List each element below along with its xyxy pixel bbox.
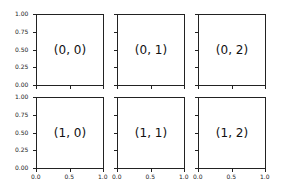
x-tick-label: 0.0 xyxy=(112,174,122,180)
y-tick-label: 0.75 xyxy=(15,29,28,35)
panel-label: (0, 2) xyxy=(199,43,265,57)
y-tick-label: 0.25 xyxy=(15,147,28,153)
y-tick xyxy=(33,67,36,68)
y-tick xyxy=(33,32,36,33)
y-tick-label: 0.25 xyxy=(15,64,28,70)
axes-panel: (0, 0) xyxy=(36,14,104,86)
x-tick xyxy=(265,86,266,89)
x-tick xyxy=(184,169,185,172)
y-tick xyxy=(33,97,36,98)
y-tick xyxy=(114,32,117,33)
y-tick xyxy=(114,97,117,98)
y-tick xyxy=(195,115,198,116)
y-tick xyxy=(33,50,36,51)
x-tick-label: 0.5 xyxy=(146,174,156,180)
panel-label: (1, 0) xyxy=(37,126,103,140)
x-tick xyxy=(232,169,233,172)
x-tick-label: 1.0 xyxy=(179,174,189,180)
y-tick xyxy=(33,150,36,151)
y-tick xyxy=(114,150,117,151)
x-tick xyxy=(70,86,71,89)
y-tick-label: 0.50 xyxy=(15,47,28,53)
y-tick-label: 0.75 xyxy=(15,112,28,118)
y-tick xyxy=(114,50,117,51)
axes-panel: (1, 0) xyxy=(36,97,104,169)
x-tick xyxy=(198,86,199,89)
panel-label: (0, 1) xyxy=(118,43,184,57)
y-tick-label: 0.00 xyxy=(15,82,28,88)
x-tick xyxy=(151,169,152,172)
panel-label: (1, 2) xyxy=(199,126,265,140)
x-tick xyxy=(151,86,152,89)
x-tick xyxy=(103,86,104,89)
y-tick xyxy=(114,14,117,15)
x-tick-label: 0.5 xyxy=(65,174,75,180)
y-tick xyxy=(195,133,198,134)
axes-panel: (0, 2) xyxy=(198,14,266,86)
y-tick-label: 0.50 xyxy=(15,130,28,136)
x-tick xyxy=(184,86,185,89)
y-tick xyxy=(195,97,198,98)
y-tick-label: 0.00 xyxy=(15,165,28,171)
axes-panel: (1, 2) xyxy=(198,97,266,169)
x-tick xyxy=(36,169,37,172)
y-tick xyxy=(114,115,117,116)
x-tick-label: 1.0 xyxy=(98,174,108,180)
y-tick xyxy=(195,32,198,33)
y-tick xyxy=(33,133,36,134)
x-tick xyxy=(265,169,266,172)
panel-label: (1, 1) xyxy=(118,126,184,140)
y-tick xyxy=(33,115,36,116)
x-tick xyxy=(103,169,104,172)
x-tick-label: 0.5 xyxy=(227,174,237,180)
y-tick xyxy=(114,67,117,68)
x-tick xyxy=(198,169,199,172)
x-tick xyxy=(36,86,37,89)
x-tick xyxy=(232,86,233,89)
axes-panel: (1, 1) xyxy=(117,97,185,169)
y-tick xyxy=(195,150,198,151)
y-tick xyxy=(195,67,198,68)
x-tick-label: 0.0 xyxy=(193,174,203,180)
x-tick xyxy=(117,86,118,89)
x-tick-label: 0.0 xyxy=(31,174,41,180)
x-tick xyxy=(117,169,118,172)
x-tick-label: 1.0 xyxy=(260,174,270,180)
y-tick-label: 1.00 xyxy=(15,11,28,17)
y-tick xyxy=(195,14,198,15)
y-tick xyxy=(195,50,198,51)
y-tick-label: 1.00 xyxy=(15,94,28,100)
x-tick xyxy=(70,169,71,172)
y-tick xyxy=(114,133,117,134)
axes-panel: (0, 1) xyxy=(117,14,185,86)
y-tick xyxy=(33,14,36,15)
panel-label: (0, 0) xyxy=(37,43,103,57)
